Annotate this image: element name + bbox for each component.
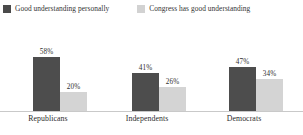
legend-item-congress-has-good-understanding: Congress has good understanding	[137, 5, 250, 13]
bar-good-understanding-personally	[33, 57, 60, 111]
bar-slot: 58%	[33, 18, 60, 111]
bar-value-label: 58%	[33, 48, 60, 56]
bar-pair: 58% 20%	[33, 18, 87, 111]
x-tick-label-democrats: Democrats	[189, 114, 299, 124]
bar-slot: 41%	[132, 18, 159, 111]
grouped-bar-chart: Good understanding personally Congress h…	[0, 0, 303, 135]
bar-group-independents: 41% 26%	[121, 18, 199, 111]
legend-item-good-understanding-personally: Good understanding personally	[3, 5, 109, 13]
bar-slot: 34%	[256, 18, 283, 111]
bar-group-democrats: 47% 34%	[218, 18, 296, 111]
bar-value-label: 47%	[229, 58, 256, 66]
legend-item-label: Good understanding personally	[15, 5, 109, 13]
x-axis-tick-labels: Republicans Independents Democrats	[0, 114, 303, 128]
bar-slot: 47%	[229, 18, 256, 111]
bar-value-label: 20%	[60, 83, 87, 91]
bar-value-label: 41%	[132, 64, 159, 72]
plot-area: 58% 20% 41% 26%	[0, 18, 303, 112]
bar-slot: 20%	[60, 18, 87, 111]
bar-congress-has-good-understanding	[256, 79, 283, 111]
bar-pair: 41% 26%	[132, 18, 186, 111]
bar-group-republicans: 58% 20%	[22, 18, 100, 111]
bar-value-label: 34%	[256, 70, 283, 78]
x-tick-label-republicans: Republicans	[0, 114, 103, 124]
bar-good-understanding-personally	[132, 73, 159, 111]
bar-congress-has-good-understanding	[60, 92, 87, 111]
bar-congress-has-good-understanding	[159, 87, 186, 111]
legend-swatch-icon	[137, 5, 145, 13]
legend-swatch-icon	[3, 5, 11, 13]
bar-value-label: 26%	[159, 78, 186, 86]
chart-legend: Good understanding personally Congress h…	[0, 2, 303, 16]
x-tick-label-independents: Independents	[92, 114, 202, 124]
bar-slot: 26%	[159, 18, 186, 111]
bar-good-understanding-personally	[229, 67, 256, 111]
bar-pair: 47% 34%	[229, 18, 283, 111]
legend-item-label: Congress has good understanding	[149, 5, 250, 13]
x-axis-baseline	[0, 111, 303, 112]
